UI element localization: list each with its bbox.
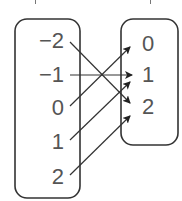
domain-value: 1 [24,131,64,153]
domain-value: 2 [24,166,64,188]
range-value: 0 [142,33,162,55]
range-value: 1 [142,64,162,86]
domain-value: −2 [24,30,64,52]
domain-value: −1 [24,64,64,86]
arrow-2-to-2 [70,116,130,175]
domain-value: 0 [24,97,64,119]
range-value: 2 [142,96,162,118]
